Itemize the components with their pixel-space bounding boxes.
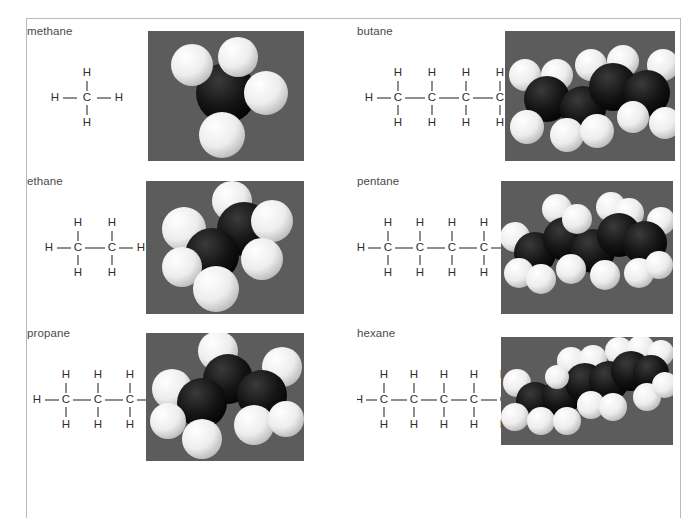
svg-text:H: H [496,66,504,78]
svg-text:H: H [108,266,116,278]
svg-text:C: C [496,91,504,103]
svg-text:C: C [62,393,70,405]
hydrogen-atom [244,71,288,115]
svg-text:H: H [126,418,134,430]
svg-text:H: H [462,116,470,128]
molecule-photo-propane [146,333,304,461]
structural-formula-propane: CC C HH HH H HH H [27,345,147,455]
svg-text:H: H [384,216,392,228]
svg-text:H: H [365,91,373,103]
model-svg-methane [148,31,304,161]
svg-text:H: H [448,216,456,228]
hydrogen-atom [234,405,274,445]
svg-text:H: H [480,216,488,228]
molecule-label-propane: propane [27,327,70,339]
model-svg-pentane [501,181,673,314]
svg-text:H: H [357,393,363,405]
molecule-photo-hexane [501,337,673,445]
molecule-cell-propane: propane [27,321,357,473]
molecule-label-methane: methane [27,25,72,37]
svg-text:H: H [416,266,424,278]
svg-text:C: C [108,241,116,253]
model-svg-butane [505,31,675,161]
svg-text:H: H [380,368,388,380]
svg-text:H: H [428,66,436,78]
formula-svg-ethane: CC HH HH HH [27,193,157,303]
svg-text:H: H [62,418,70,430]
hydrogen-atom [150,403,186,439]
svg-text:H: H [470,418,478,430]
svg-text:H: H [94,368,102,380]
svg-text:C: C [428,91,436,103]
molecule-cell-pentane: pentane [357,169,682,321]
model-svg-ethane [146,181,304,314]
svg-text:C: C [470,393,478,405]
svg-text:H: H [448,266,456,278]
molecule-cell-hexane: hexane [357,321,682,473]
svg-text:H: H [480,266,488,278]
molecule-photo-methane [148,31,304,161]
svg-text:C: C [380,393,388,405]
molecule-cell-butane: butane [357,19,682,171]
figure-frame: methane C H H H H [26,18,681,518]
svg-text:H: H [45,241,53,253]
svg-text:H: H [428,116,436,128]
svg-text:H: H [440,418,448,430]
structural-formula-methane: C H H H H [27,43,147,153]
bonds [57,231,133,265]
molecule-photo-ethane [146,181,304,314]
svg-text:C: C [94,393,102,405]
molecule-label-butane: butane [357,25,393,37]
svg-text:C: C [384,241,392,253]
svg-text:H: H [394,116,402,128]
hydrogen-atom [182,419,222,459]
svg-text:H: H [496,116,504,128]
molecule-grid: methane C H H H H [27,19,680,475]
svg-text:H: H [94,418,102,430]
hydrogen-atom [251,200,293,242]
molecule-cell-methane: methane C H H H H [27,19,357,171]
svg-text:H: H [470,368,478,380]
atom-hydrogen-bottom: H [83,116,91,128]
molecule-photo-pentane [501,181,673,314]
hydrogen-atom [241,238,283,280]
atom-hydrogen-top: H [83,66,91,78]
atom-hydrogen-right: H [115,91,123,103]
svg-text:H: H [126,368,134,380]
svg-text:H: H [462,66,470,78]
atoms: CC C HH HH H HH H [33,368,163,430]
svg-text:H: H [62,368,70,380]
molecule-label-hexane: hexane [357,327,395,339]
atoms: CC CC C H HH HH H HH HH H [357,216,520,278]
atom-carbon: C [83,91,91,103]
svg-text:H: H [394,66,402,78]
svg-text:C: C [394,91,402,103]
atom-hydrogen-left: H [51,91,59,103]
svg-text:H: H [108,216,116,228]
molecule-photo-butane [505,31,675,161]
svg-text:C: C [416,241,424,253]
svg-text:C: C [74,241,82,253]
svg-text:H: H [33,393,41,405]
hydrogen-atom [171,44,213,86]
model-svg-propane [146,333,304,461]
hydrogen-atom [268,401,304,437]
svg-text:H: H [74,216,82,228]
hydrogen-atom [218,37,258,77]
hydrogen-atom [193,266,239,312]
svg-text:H: H [357,241,365,253]
svg-text:C: C [462,91,470,103]
svg-text:C: C [448,241,456,253]
svg-text:H: H [416,216,424,228]
molecule-label-pentane: pentane [357,175,399,187]
svg-text:H: H [384,266,392,278]
svg-text:C: C [480,241,488,253]
molecule-cell-ethane: ethane CC [27,169,357,321]
svg-text:H: H [380,418,388,430]
svg-text:H: H [410,418,418,430]
svg-text:H: H [410,368,418,380]
model-svg-hexane [501,337,673,445]
svg-text:H: H [440,368,448,380]
hydrogen-atom [199,112,245,158]
